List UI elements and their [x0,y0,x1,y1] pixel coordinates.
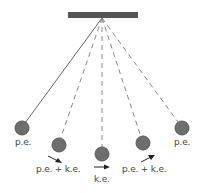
arrow-bottom-icon [94,165,110,170]
string-left-mid [60,18,102,140]
label-left-mid: p.e. + k.e. [36,164,81,174]
label-right-mid: p.e. + k.e. [122,164,167,174]
bob-left-extreme [15,121,29,135]
support-bar [68,12,138,18]
string-left-extreme [25,18,102,123]
string-right-mid [102,18,141,137]
label-right-extreme: p.e. [174,137,190,147]
pendulum-diagram [0,0,203,193]
bob-right-extreme [175,121,189,135]
label-left-extreme: p.e. [15,137,31,147]
bob-right-mid [136,136,150,150]
label-bottom: k.e. [94,174,110,184]
arrow-right-mid-icon [141,155,155,162]
bob-bottom [95,147,109,161]
arrow-left-mid-icon [48,156,62,163]
string-right-extreme [102,18,178,122]
bob-left-mid [52,138,66,152]
